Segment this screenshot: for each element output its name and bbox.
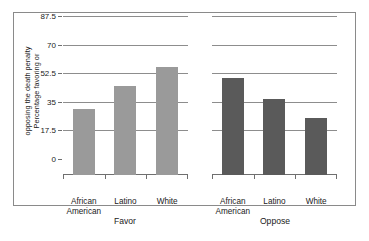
y-tick-label-35: 35 (47, 97, 56, 106)
group-label-favor: Favor (85, 216, 165, 226)
category-labels-oppose: African American Latino White (212, 197, 337, 216)
panel-oppose: African American Latino White (212, 16, 337, 175)
bar-favor-african-american (73, 109, 95, 175)
category-label-oppose-latino: Latino (254, 197, 294, 207)
bar-oppose-latino (263, 99, 285, 175)
cat-line1: African (220, 197, 245, 206)
cat-line2: American (67, 207, 102, 216)
bar-oppose-african-american (222, 78, 244, 175)
category-labels-favor: African American Latino White (63, 197, 188, 216)
category-label-favor-white: White (147, 197, 187, 207)
y-tick-label-0: 0 (52, 155, 56, 164)
cat-line1: White (157, 197, 178, 206)
category-label-oppose-african-american: African American (213, 197, 253, 216)
category-label-favor-african-american: African American (64, 197, 104, 216)
bar-favor-latino (114, 86, 136, 175)
cat-line1: Latino (114, 197, 136, 206)
x-axis-ticks-oppose (212, 175, 337, 179)
bar-group-favor (63, 32, 188, 175)
y-tick-label-17-5: 17.5 (40, 126, 56, 135)
x-axis-ticks-favor (63, 175, 188, 179)
y-axis-ticks: 87.5 70 52.5 35 17.5 0 (18, 0, 56, 241)
y-tick-label-70: 70 (47, 40, 56, 49)
y-tick-label-87-5: 87.5 (40, 12, 56, 21)
category-label-oppose-white: White (296, 197, 336, 207)
cat-line1: Latino (263, 197, 285, 206)
bar-favor-white (156, 67, 178, 175)
cat-line1: African (71, 197, 96, 206)
bar-oppose-white (305, 118, 327, 175)
y-tick-label-52-5: 52.5 (40, 69, 56, 78)
panel-favor: African American Latino White (63, 16, 188, 175)
cat-line2: American (216, 207, 251, 216)
bar-chart-figure: Percentage favoring or opposing the deat… (0, 0, 369, 241)
group-label-oppose: Oppose (235, 216, 315, 226)
bar-group-oppose (212, 32, 337, 175)
cat-line1: White (306, 197, 327, 206)
category-label-favor-latino: Latino (105, 197, 145, 207)
